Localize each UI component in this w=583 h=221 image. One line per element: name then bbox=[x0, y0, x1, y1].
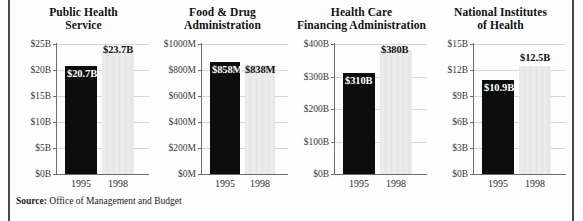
gridline bbox=[334, 174, 427, 175]
chart-panel-national-institutes-of-health: National Institutes of Health $0B$3B$6B$… bbox=[431, 0, 570, 192]
y-axis-tick-mark bbox=[198, 174, 202, 175]
x-axis-labels: 19951998 bbox=[334, 178, 427, 192]
x-axis-label: 1998 bbox=[250, 178, 270, 189]
bar-value-label-1995: $20.7B bbox=[67, 68, 97, 79]
bars-group: $10.9B$12.5B bbox=[473, 44, 566, 174]
bar-1995 bbox=[65, 66, 97, 174]
bar-1995 bbox=[482, 80, 514, 174]
bar-value-label-1995: $310B bbox=[345, 75, 373, 86]
chart-panel-public-health-service: Public Health Service $0B$5B$10B$15B$20B… bbox=[14, 0, 153, 192]
bar-value-label-1995: $10.9B bbox=[484, 82, 514, 93]
panel-title: Health Care Financing Administration bbox=[292, 6, 431, 31]
y-axis-tick-label: $800M bbox=[169, 65, 196, 75]
plot-area: $0B$3B$6B$9B$12B$15B $10.9B$12.5B 199519… bbox=[473, 44, 566, 174]
chart-panel-health-care-financing-administration: Health Care Financing Administration $0B… bbox=[292, 0, 431, 192]
y-axis-tick-label: $0B bbox=[452, 169, 468, 179]
panel-title: National Institutes of Health bbox=[431, 6, 570, 31]
budget-chart-figure: Public Health Service $0B$5B$10B$15B$20B… bbox=[0, 0, 583, 221]
y-axis-tick-mark bbox=[331, 174, 335, 175]
y-axis-tick-label: $1000M bbox=[164, 39, 196, 49]
x-axis-labels: 19951998 bbox=[201, 178, 288, 192]
x-axis-labels: 19951998 bbox=[56, 178, 149, 192]
frame-rule-left bbox=[8, 0, 10, 221]
bar-1995 bbox=[343, 73, 375, 174]
y-axis-tick-label: $200B bbox=[304, 104, 329, 114]
x-axis-label: 1998 bbox=[525, 178, 545, 189]
gridline bbox=[473, 174, 566, 175]
y-axis-tick-label: $20B bbox=[30, 65, 51, 75]
bar-value-label-1998: $380B bbox=[381, 44, 409, 55]
y-axis-tick-label: $25B bbox=[30, 39, 51, 49]
plot-area: $0B$5B$10B$15B$20B$25B $20.7B$23.7B 1995… bbox=[56, 44, 149, 174]
y-axis-tick-mark bbox=[470, 174, 474, 175]
x-axis-label: 1995 bbox=[488, 178, 508, 189]
plot-area: $0B$100B$200B$300B$400B $310B$380B 19951… bbox=[334, 44, 427, 174]
y-axis-tick-label: $300B bbox=[304, 72, 329, 82]
bars-group: $20.7B$23.7B bbox=[56, 44, 149, 174]
y-axis-tick-label: $10B bbox=[30, 117, 51, 127]
bars-group: $310B$380B bbox=[334, 44, 427, 174]
panel-title: Public Health Service bbox=[14, 6, 153, 31]
source-text: Office of Management and Budget bbox=[49, 196, 181, 206]
y-axis-tick-label: $0B bbox=[313, 169, 329, 179]
y-axis-tick-label: $9B bbox=[452, 91, 468, 101]
bar-1998 bbox=[519, 66, 551, 174]
y-axis-tick-label: $600M bbox=[169, 91, 196, 101]
y-axis-tick-label: $3B bbox=[452, 143, 468, 153]
y-axis-tick-label: $0M bbox=[178, 169, 196, 179]
x-axis-label: 1998 bbox=[386, 178, 406, 189]
bar-1998 bbox=[245, 65, 275, 174]
x-axis-label: 1995 bbox=[349, 178, 369, 189]
x-axis-label: 1995 bbox=[71, 178, 91, 189]
y-axis-tick-label: $15B bbox=[447, 39, 468, 49]
y-axis-tick-label: $200M bbox=[169, 143, 196, 153]
y-axis-tick-label: $400B bbox=[304, 39, 329, 49]
bar-value-label-1998: $23.7B bbox=[103, 44, 133, 55]
y-axis-tick-label: $6B bbox=[452, 117, 468, 127]
x-axis-labels: 19951998 bbox=[473, 178, 566, 192]
bar-value-label-1995: $858M bbox=[212, 64, 242, 75]
bar-value-label-1998: $838M bbox=[245, 64, 275, 75]
y-axis-tick-label: $400M bbox=[169, 117, 196, 127]
x-axis-label: 1998 bbox=[108, 178, 128, 189]
y-axis-tick-label: $100B bbox=[304, 137, 329, 147]
source-note: Source: Office of Management and Budget bbox=[16, 196, 182, 206]
bars-group: $858M$838M bbox=[201, 44, 288, 174]
y-axis-tick-label: $5B bbox=[35, 143, 51, 153]
plot-area: $0M$200M$400M$600M$800M$1000M $858M$838M… bbox=[201, 44, 288, 174]
y-axis-tick-label: $0B bbox=[35, 169, 51, 179]
x-axis-label: 1995 bbox=[215, 178, 235, 189]
gridline bbox=[201, 174, 288, 175]
bar-value-label-1998: $12.5B bbox=[520, 52, 550, 63]
gridline bbox=[56, 174, 149, 175]
chart-panel-food-and-drug-administration: Food & Drug Administration $0M$200M$400M… bbox=[153, 0, 292, 192]
y-axis-tick-label: $15B bbox=[30, 91, 51, 101]
panel-title: Food & Drug Administration bbox=[153, 6, 292, 31]
y-axis-tick-mark bbox=[53, 174, 57, 175]
chart-panel-row: Public Health Service $0B$5B$10B$15B$20B… bbox=[14, 0, 570, 192]
source-label: Source: bbox=[16, 196, 47, 206]
frame-rule-right bbox=[572, 0, 574, 221]
bar-1998 bbox=[102, 51, 134, 174]
bar-1995 bbox=[210, 62, 240, 174]
y-axis-tick-label: $12B bbox=[447, 65, 468, 75]
bar-1998 bbox=[380, 50, 412, 174]
